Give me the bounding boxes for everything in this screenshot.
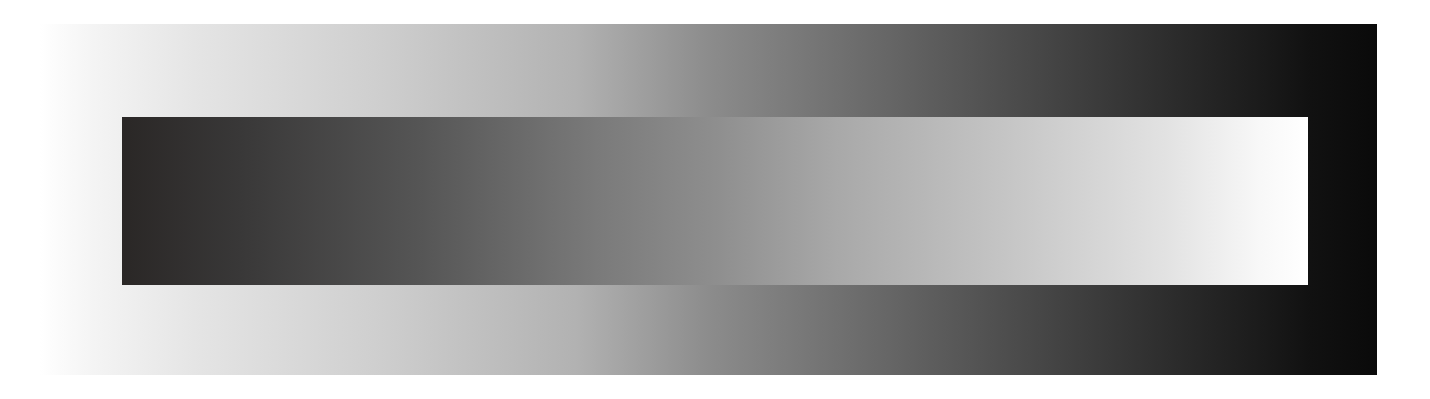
contrast-gradient-bar: [122, 117, 1308, 285]
